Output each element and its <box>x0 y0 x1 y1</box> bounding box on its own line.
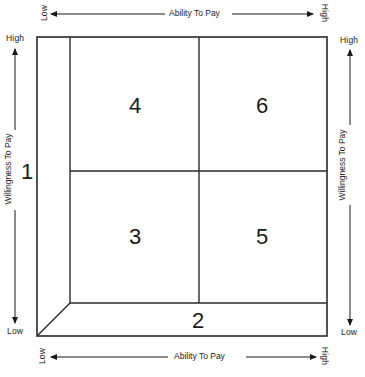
top-axis-title: Ability To Pay <box>167 8 222 18</box>
matrix-diagram <box>0 0 365 377</box>
top-axis-low-label: Low <box>39 5 49 21</box>
bottom-axis-title: Ability To Pay <box>172 351 227 361</box>
right-axis-title: Willingness To Pay <box>337 127 347 202</box>
top-axis-high-label: High <box>320 4 330 22</box>
left-axis-title: Willingness To Pay <box>3 131 13 206</box>
region-1-label: 1 <box>21 161 33 183</box>
region-2-label: 2 <box>192 310 204 332</box>
bottom-axis-low-label: Low <box>37 348 47 364</box>
region-5-label: 5 <box>256 226 268 248</box>
region-3-label: 3 <box>129 226 141 248</box>
right-axis-high-label: High <box>340 35 358 45</box>
bottom-axis-high-label: High <box>320 347 330 365</box>
region-6-label: 6 <box>256 95 268 117</box>
outer-frame <box>37 37 327 336</box>
left-axis-low-label: Low <box>7 326 23 336</box>
perspective-diagonal <box>37 303 70 336</box>
right-axis-low-label: Low <box>341 327 357 337</box>
region-4-label: 4 <box>129 95 141 117</box>
left-axis-high-label: High <box>6 33 24 43</box>
